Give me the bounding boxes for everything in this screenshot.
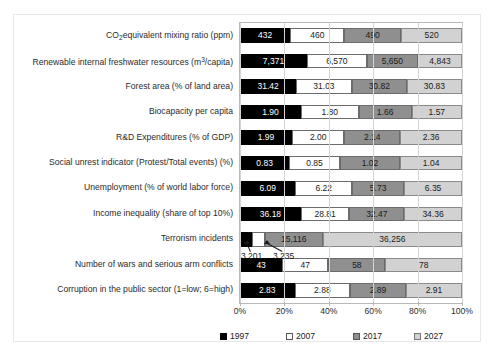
category-axis-labels: CO2equivalent mixing ratio (ppm)Renewabl…	[8, 22, 236, 304]
bar-value-label: 460	[310, 31, 324, 40]
bar-segment: 31.42	[240, 79, 296, 94]
bar-segment: 1.57	[412, 105, 462, 120]
bar-row: 1.901.801.661.57	[240, 105, 462, 120]
legend-label: 1997	[230, 331, 249, 341]
gridline	[240, 23, 241, 303]
bar-row: 43475878	[240, 258, 462, 273]
bar-value-label: 43	[256, 261, 265, 270]
legend-label: 2027	[424, 331, 443, 341]
bar-value-label: 6.09	[259, 184, 276, 193]
plot-area: 4324604905207,3716,5705,6504,84331.4231.…	[239, 22, 463, 304]
bar-segment: 30.83	[407, 79, 462, 94]
bar-value-label: 36,256	[379, 235, 405, 244]
bar-segment: 2.00	[292, 130, 344, 145]
bar-segment: 2.36	[400, 130, 462, 145]
category-label: CO2equivalent mixing ratio (ppm)	[106, 30, 233, 43]
bar-value-label: 2.83	[259, 286, 276, 295]
bar-value-label: 2.00	[310, 133, 327, 142]
bar-value-label: 2.91	[426, 286, 443, 295]
x-axis: 0%20%40%60%80%100%	[239, 306, 463, 320]
bar-segment: 7,371	[240, 54, 307, 69]
bar-segment: 30.82	[352, 79, 407, 94]
bar-segment: 1.04	[400, 156, 462, 171]
legend-item-2007[interactable]: 2007	[286, 331, 315, 341]
gridline	[329, 23, 330, 303]
bar-value-label: 58	[352, 261, 361, 270]
gridline	[418, 23, 419, 303]
bar-value-label: 7,371	[263, 57, 284, 66]
bar-rows: 4324604905207,3716,5705,6504,84331.4231.…	[240, 23, 462, 303]
bar-value-label: 34.36	[422, 210, 443, 219]
category-label: Corruption in the public sector (1=low; …	[57, 284, 233, 294]
x-tick-label: 80%	[409, 306, 426, 316]
category-label: R&D Expenditures (% of GDP)	[116, 132, 233, 142]
bar-segment: 78	[385, 258, 462, 273]
bar-value-label: 31.42	[257, 82, 278, 91]
bar-row: 7,3716,5705,6504,843	[240, 54, 462, 69]
bar-segment: 43	[240, 258, 282, 273]
bar-segment: 460	[290, 28, 344, 43]
legend-label: 2017	[363, 331, 382, 341]
bar-segment: 6,570	[307, 54, 367, 69]
chart-legend: 1997200720172027	[220, 331, 460, 345]
bar-row: 0.830.851.021.04	[240, 156, 462, 171]
bar-value-label: 30.83	[424, 82, 445, 91]
bar-segment: 3,235	[252, 232, 264, 247]
bar-value-label: 0.83	[256, 159, 273, 168]
category-label: Number of wars and serious arm conflicts	[75, 259, 233, 269]
bar-value-label: 1.02	[362, 159, 379, 168]
bar-segment: 5.73	[352, 181, 404, 196]
bar-segment: 58	[328, 258, 385, 273]
bar-segment: 4,843	[418, 54, 462, 69]
legend-item-2017[interactable]: 2017	[353, 331, 382, 341]
bar-segment: 2.83	[240, 283, 295, 298]
bar-segment: 31.03	[296, 79, 352, 94]
category-label: Unemployment (% of world labor force)	[84, 182, 233, 192]
legend-swatch-icon	[286, 333, 293, 340]
bar-value-label: 0.85	[306, 159, 323, 168]
bar-value-label: 78	[419, 261, 428, 270]
bar-segment: 2.89	[350, 283, 406, 298]
bar-value-label: 2.36	[423, 133, 440, 142]
stacked-bar-chart: CO2equivalent mixing ratio (ppm)Renewabl…	[0, 0, 496, 357]
bar-segment: 1.90	[240, 105, 301, 120]
bar-segment: 6.35	[404, 181, 462, 196]
bar-row: 1.992.002.142.36	[240, 130, 462, 145]
bar-segment: 1.02	[340, 156, 401, 171]
bar-row: 2.832.882.892.91	[240, 283, 462, 298]
x-tick-label: 60%	[365, 306, 382, 316]
bar-segment: 47	[282, 258, 328, 273]
category-label: Biocapacity per capita	[149, 106, 233, 116]
bar-segment: 3,201	[240, 232, 252, 247]
bar-segment: 36.18	[240, 207, 301, 222]
category-label: Forest area (% of land area)	[126, 81, 233, 91]
legend-item-2027[interactable]: 2027	[414, 331, 443, 341]
bar-value-label: 5,650	[382, 57, 403, 66]
x-tick-label: 20%	[276, 306, 293, 316]
bar-value-label: 47	[301, 261, 310, 270]
bar-value-label: 1.90	[262, 108, 279, 117]
bar-row: 432460490520	[240, 28, 462, 43]
category-label: Income inequality (share of top 10%)	[93, 208, 233, 218]
bar-segment: 2.88	[295, 283, 351, 298]
bar-value-label: 520	[425, 31, 439, 40]
gridline	[462, 23, 463, 303]
bar-row: 31.4231.0330.8230.83	[240, 79, 462, 94]
bar-value-label: 1.66	[377, 108, 394, 117]
category-label: Terrorism incidents	[161, 233, 233, 243]
bar-segment: 34.36	[404, 207, 462, 222]
x-tick-label: 40%	[320, 306, 337, 316]
bar-value-label: 432	[258, 31, 272, 40]
bar-segment: 0.83	[240, 156, 289, 171]
bar-segment: 6.22	[295, 181, 352, 196]
bar-value-label: 6.35	[425, 184, 442, 193]
category-label: Social unrest indicator (Protest/Total e…	[49, 157, 233, 167]
bar-segment: 15,116	[265, 232, 323, 247]
legend-item-1997[interactable]: 1997	[220, 331, 249, 341]
bar-value-label: 1.99	[258, 133, 275, 142]
bar-value-label: 32.47	[366, 210, 387, 219]
category-label: Renewable internal freshwater resources …	[33, 55, 233, 67]
bar-row: 3,2013,23515,11636,256	[240, 232, 462, 247]
bar-value-label: 4,843	[429, 57, 450, 66]
bar-segment: 36,256	[323, 232, 462, 247]
